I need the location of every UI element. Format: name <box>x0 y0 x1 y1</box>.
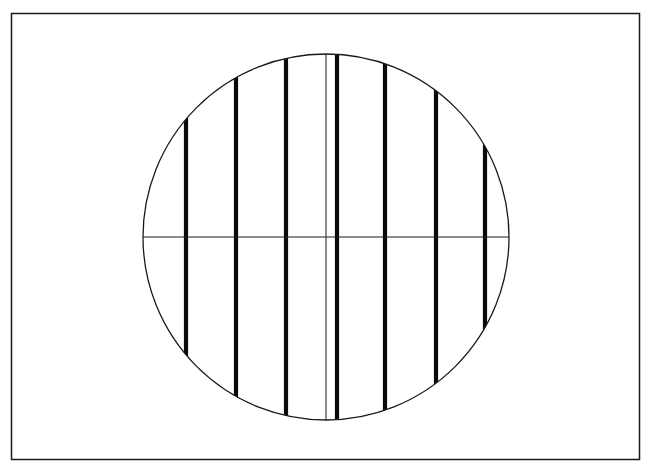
background <box>0 0 655 465</box>
diagram-canvas <box>0 0 655 465</box>
